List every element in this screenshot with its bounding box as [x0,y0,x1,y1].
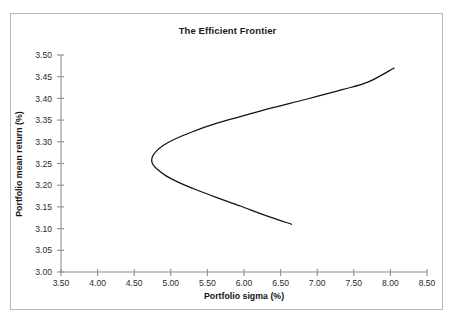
x-tick-label: 5.00 [162,278,179,288]
chart-plot: 3.003.053.103.153.203.253.303.353.403.45… [0,0,453,325]
efficient-frontier-curve [152,68,394,224]
x-tick-label: 4.50 [126,278,143,288]
figure-container: The Efficient Frontier 3.003.053.103.153… [10,13,443,310]
y-tick-label: 3.40 [35,94,52,104]
y-axis-ticks: 3.003.053.103.153.203.253.303.353.403.45… [35,50,64,277]
y-tick-label: 3.05 [35,245,52,255]
x-tick-label: 3.50 [53,278,70,288]
x-tick-label: 5.50 [199,278,216,288]
y-tick-label: 3.45 [35,72,52,82]
y-tick-label: 3.30 [35,137,52,147]
x-tick-label: 8.50 [419,278,436,288]
x-axis-title: Portfolio sigma (%) [204,291,284,301]
x-tick-label: 6.00 [236,278,253,288]
x-tick-label: 4.00 [89,278,106,288]
x-tick-label: 8.00 [382,278,399,288]
y-tick-label: 3.50 [35,50,52,60]
y-tick-label: 3.25 [35,159,52,169]
y-tick-label: 3.35 [35,115,52,125]
y-tick-label: 3.20 [35,180,52,190]
y-tick-label: 3.10 [35,224,52,234]
y-axis-title: Portfolio mean return (%) [14,111,24,217]
x-tick-label: 6.50 [272,278,289,288]
x-tick-label: 7.50 [345,278,362,288]
y-tick-label: 3.15 [35,202,52,212]
x-tick-label: 7.00 [309,278,326,288]
y-tick-label: 3.00 [35,267,52,277]
